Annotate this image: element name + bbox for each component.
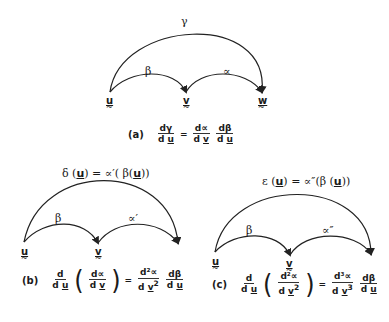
arc-beta-c bbox=[215, 236, 290, 255]
arc-label-beta-c: β bbox=[246, 225, 252, 236]
arc-alpha-double-prime bbox=[290, 236, 371, 255]
arc-delta bbox=[24, 181, 178, 243]
equation-tag-b: (b) bbox=[22, 275, 38, 286]
equals-sign: = bbox=[180, 129, 188, 139]
arc-alpha-prime bbox=[98, 224, 178, 243]
fraction-d-alpha-dv: d∝ d v bbox=[191, 124, 210, 145]
panel-b-arcs bbox=[24, 181, 178, 243]
node-v: v bbox=[183, 96, 190, 106]
fraction-d-beta-du: dβ d u bbox=[215, 124, 235, 145]
arc-label-alpha: ∝ bbox=[223, 66, 230, 77]
arc-label-alpha-double-prime: ∝″ bbox=[322, 225, 334, 236]
node-w: w bbox=[258, 96, 267, 106]
arc-label-beta-b: β bbox=[55, 213, 61, 224]
title-b: δ (u) = ∝′( β(u)) bbox=[62, 168, 150, 179]
arc-epsilon bbox=[215, 194, 371, 254]
panel-a-arcs bbox=[110, 34, 262, 92]
panel-c-arcs bbox=[215, 194, 371, 255]
node-v-c: v bbox=[286, 259, 293, 269]
title-c: ε (u) = ∝″(β (u)) bbox=[262, 176, 350, 187]
fraction-d-gamma-du: dγ d u bbox=[156, 124, 176, 145]
node-v-b: v bbox=[95, 247, 102, 257]
equation-c: (c) d d u ( d²∝ d v2 ) = d³∝ d v3 dβ d u bbox=[212, 272, 379, 296]
node-u-c: u bbox=[212, 257, 219, 267]
arc-label-beta: β bbox=[145, 66, 151, 77]
node-u-b: u bbox=[21, 247, 28, 257]
equation-tag-a: (a) bbox=[128, 129, 144, 140]
arc-label-gamma: γ bbox=[181, 16, 188, 27]
arc-label-alpha-prime: ∝′ bbox=[128, 213, 138, 224]
equation-tag-c: (c) bbox=[212, 279, 227, 290]
arc-beta-b bbox=[24, 224, 98, 243]
arc-gamma bbox=[110, 34, 262, 92]
equation-b: (b) d d u ( d∝ d v ) = d²∝ d v2 dβ d u bbox=[22, 268, 185, 292]
node-u: u bbox=[106, 96, 113, 106]
equation-a: (a) dγ d u = d∝ d v dβ d u bbox=[128, 124, 235, 145]
